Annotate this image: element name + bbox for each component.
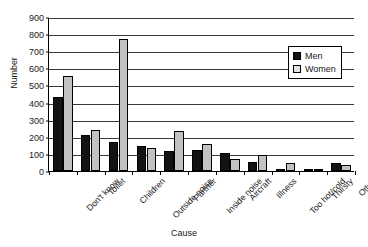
y-axis-tick-label: 900 [29,13,44,23]
y-axis-tick-label: 400 [29,99,44,109]
y-axis-tick-label: 300 [29,116,44,126]
x-axis-tick-mark [160,171,161,175]
bar-men [304,169,314,171]
y-axis-tick-label: 700 [29,47,44,57]
x-axis-category-label: Toilet [106,176,127,197]
x-axis-tick-mark [216,171,217,175]
bar-women [286,163,296,171]
x-axis-category-label: Illness [274,176,298,200]
x-axis-tick-mark [244,171,245,175]
y-axis-tick-label: 0 [39,167,44,177]
bar-group [327,18,355,171]
bar-men [164,151,174,171]
bar-women [258,155,268,171]
bar-men [109,142,119,171]
x-axis-tick-mark [299,171,300,175]
bar-women [341,165,351,171]
bar-men [53,97,63,171]
x-axis-title: Cause [0,228,368,238]
bar-men [81,135,91,171]
bar-women [147,148,157,171]
x-axis-tick-mark [49,171,50,175]
y-axis-tick-label: 800 [29,30,44,40]
x-axis-tick-mark [105,171,106,175]
bar-women [63,76,73,171]
legend-label-women: Women [305,64,336,74]
bar-men [192,150,202,171]
bar-men [220,153,230,171]
x-axis-tick-mark [272,171,273,175]
bar-group [105,18,133,171]
plot-area: 0100200300400500600700800900 [48,18,354,172]
bar-group [49,18,77,171]
chart-legend: Men Women [288,46,342,79]
x-axis-category-label: Thirsty [330,176,355,201]
bar-men [276,169,286,171]
x-axis-category-label: Children [137,176,167,206]
bar-group [272,18,300,171]
legend-label-men: Men [305,51,323,61]
bar-group [216,18,244,171]
legend-swatch-women-icon [293,65,301,73]
bar-women [230,159,240,171]
legend-item-men: Men [293,49,336,62]
x-axis-tick-mark [355,171,356,175]
bar-group [77,18,105,171]
x-axis-tick-mark [327,171,328,175]
legend-item-women: Women [293,62,336,75]
bar-men [248,162,258,171]
bar-women [119,39,129,171]
bar-chart: Number 0100200300400500600700800900 Men … [0,0,368,247]
y-axis-tick-label: 500 [29,81,44,91]
bar-men [331,163,341,171]
bar-women [314,169,324,171]
bar-women [202,144,212,171]
y-axis-tick-label: 100 [29,150,44,160]
bar-group [188,18,216,171]
bar-group [160,18,188,171]
y-axis-tick-label: 200 [29,133,44,143]
x-axis-tick-mark [188,171,189,175]
bar-group [299,18,327,171]
bar-women [91,130,101,171]
bar-women [174,131,184,171]
x-axis-tick-mark [132,171,133,175]
x-axis-category-label: Other [356,176,368,198]
legend-swatch-men-icon [293,52,301,60]
bar-group [244,18,272,171]
y-axis-tick-label: 600 [29,64,44,74]
bar-men [137,146,147,171]
x-axis-tick-mark [77,171,78,175]
y-axis-title: Number [9,33,19,113]
bar-group [132,18,160,171]
